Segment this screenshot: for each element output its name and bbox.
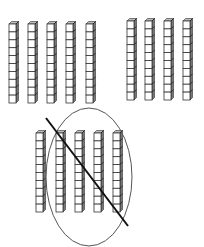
- unit-cube: [164, 92, 171, 100]
- unit-cube: [164, 21, 171, 29]
- unit-cube: [75, 188, 82, 196]
- unit-cube: [56, 141, 63, 149]
- unit-cube: [9, 40, 16, 48]
- unit-cube: [94, 173, 101, 181]
- unit-cube: [183, 45, 190, 53]
- unit-cube: [145, 45, 152, 53]
- unit-cube: [145, 29, 152, 37]
- unit-cube: [66, 24, 73, 32]
- unit-cube: [94, 196, 101, 204]
- unit-cube: [86, 95, 93, 103]
- tens-rod: [66, 22, 76, 104]
- unit-cube: [47, 71, 54, 79]
- unit-cube: [75, 133, 82, 141]
- unit-cube: [86, 87, 93, 95]
- unit-cube: [86, 24, 93, 32]
- unit-cube: [47, 95, 54, 103]
- unit-cube: [86, 71, 93, 79]
- unit-cube: [113, 133, 120, 141]
- unit-cube: [36, 204, 43, 212]
- unit-cube: [94, 204, 101, 212]
- unit-cube: [113, 188, 120, 196]
- unit-cube: [9, 32, 16, 40]
- unit-cube: [164, 61, 171, 69]
- unit-cube: [94, 133, 101, 141]
- tens-rod: [164, 19, 174, 101]
- unit-cube: [47, 87, 54, 95]
- group-top-left: [9, 22, 96, 104]
- unit-cube: [94, 165, 101, 173]
- unit-cube: [86, 56, 93, 64]
- unit-cube: [127, 45, 134, 53]
- unit-cube: [86, 48, 93, 56]
- unit-cube: [183, 68, 190, 76]
- unit-cube: [9, 71, 16, 79]
- unit-cube: [56, 188, 63, 196]
- unit-cube: [9, 95, 16, 103]
- unit-cube: [86, 40, 93, 48]
- unit-cube: [183, 61, 190, 69]
- unit-cube: [164, 84, 171, 92]
- unit-cube: [113, 157, 120, 165]
- unit-cube: [56, 196, 63, 204]
- unit-cube: [164, 45, 171, 53]
- unit-cube: [145, 68, 152, 76]
- unit-cube: [145, 21, 152, 29]
- unit-cube: [94, 141, 101, 149]
- unit-cube: [9, 56, 16, 64]
- unit-cube: [145, 92, 152, 100]
- unit-cube: [36, 173, 43, 181]
- unit-cube: [164, 53, 171, 61]
- tens-rod: [9, 22, 19, 104]
- unit-cube: [127, 37, 134, 45]
- unit-cube: [145, 61, 152, 69]
- unit-cube: [66, 87, 73, 95]
- unit-cube: [183, 21, 190, 29]
- unit-cube: [75, 180, 82, 188]
- unit-cube: [47, 32, 54, 40]
- unit-cube: [47, 40, 54, 48]
- unit-cube: [28, 48, 35, 56]
- unit-cube: [183, 29, 190, 37]
- unit-cube: [56, 204, 63, 212]
- unit-cube: [66, 95, 73, 103]
- unit-cube: [113, 173, 120, 181]
- base-ten-blocks-diagram: [0, 0, 204, 247]
- tens-rod: [28, 22, 38, 104]
- unit-cube: [113, 180, 120, 188]
- unit-cube: [9, 48, 16, 56]
- unit-cube: [66, 40, 73, 48]
- unit-cube: [66, 64, 73, 72]
- unit-cube: [164, 29, 171, 37]
- tens-rod: [86, 22, 96, 104]
- unit-cube: [9, 64, 16, 72]
- unit-cube: [56, 157, 63, 165]
- unit-cube: [94, 149, 101, 157]
- unit-cube: [28, 64, 35, 72]
- unit-cube: [47, 79, 54, 87]
- unit-cube: [47, 56, 54, 64]
- tens-rod: [94, 131, 104, 213]
- unit-cube: [47, 64, 54, 72]
- unit-cube: [9, 24, 16, 32]
- unit-cube: [47, 24, 54, 32]
- unit-cube: [66, 79, 73, 87]
- tens-rod: [127, 19, 137, 101]
- group-top-right: [127, 19, 193, 101]
- unit-cube: [145, 84, 152, 92]
- unit-cube: [164, 76, 171, 84]
- unit-cube: [66, 48, 73, 56]
- unit-cube: [66, 56, 73, 64]
- group-bottom: [36, 131, 123, 213]
- unit-cube: [113, 141, 120, 149]
- unit-cube: [164, 37, 171, 45]
- unit-cube: [127, 21, 134, 29]
- unit-cube: [36, 133, 43, 141]
- unit-cube: [75, 173, 82, 181]
- unit-cube: [56, 149, 63, 157]
- unit-cube: [127, 68, 134, 76]
- unit-cube: [36, 141, 43, 149]
- unit-cube: [127, 53, 134, 61]
- unit-cube: [56, 180, 63, 188]
- unit-cube: [36, 165, 43, 173]
